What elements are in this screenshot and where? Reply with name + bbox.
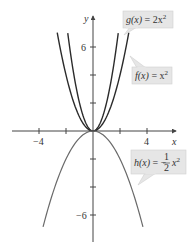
callout-h-func: h(x)	[134, 157, 151, 169]
callout-f: f(x) = x2	[130, 56, 172, 84]
graph-canvas: −4 4 6 −6 x y g(x) = 2x2 f(x) = x2 h(x) …	[0, 0, 196, 251]
callout-f-func: f(x)	[135, 70, 150, 82]
x-tick-label-4: 4	[144, 136, 149, 147]
callout-g-sup: 2	[163, 13, 167, 21]
callout-h-num: 1	[164, 151, 169, 162]
y-axis-label: y	[83, 13, 89, 24]
x-tick-label-neg4: −4	[33, 136, 44, 147]
x-axis-label: x	[171, 136, 177, 147]
callout-h: h(x) = − 1 2 x2	[131, 150, 186, 185]
callout-g-eq: = 2x	[142, 14, 163, 25]
svg-text:f(x) = x2: f(x) = x2	[135, 69, 169, 82]
y-tick-label-6: 6	[81, 42, 86, 53]
callout-f-sup: 2	[165, 69, 169, 77]
svg-text:h(x) = −: h(x) = −	[134, 157, 167, 169]
callout-h-den: 2	[164, 162, 169, 173]
svg-text:g(x) = 2x2: g(x) = 2x2	[126, 13, 167, 26]
callout-h-sup: 2	[176, 156, 180, 164]
y-tick-label-neg6: −6	[76, 210, 87, 221]
callout-g: g(x) = 2x2	[123, 11, 173, 35]
callout-f-eq: = x	[149, 70, 165, 81]
callout-g-func: g(x)	[126, 14, 143, 26]
